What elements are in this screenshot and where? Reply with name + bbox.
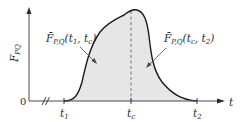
annotation-left: F̄P,Q(t1, tc) — [45, 32, 96, 46]
shaded-area-under-curve — [64, 10, 197, 101]
tick-label-t2: t2 — [193, 107, 202, 121]
tick-label-t1: t1 — [60, 107, 69, 121]
svg-text:FPQ: FPQ — [8, 44, 22, 63]
integral-diagram: 0 t t1 tc t2 FPQ F̄P,Q(t1, tc) F̄P,Q(tc,… — [0, 0, 246, 122]
annotation-right: F̄P,Q(tc, t2) — [163, 32, 214, 46]
x-axis-arrow-icon — [217, 99, 225, 104]
y-axis-arrow-icon — [27, 7, 32, 14]
x-axis-label: t — [229, 96, 234, 108]
tick-label-tc: tc — [127, 107, 135, 121]
origin-label: 0 — [20, 96, 26, 107]
y-axis-label: FPQ — [8, 44, 22, 63]
diagram-svg: 0 t t1 tc t2 FPQ F̄P,Q(t1, tc) F̄P,Q(tc,… — [0, 0, 246, 122]
